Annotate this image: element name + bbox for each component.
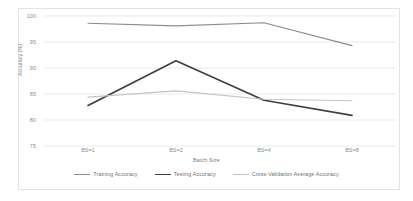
- legend-swatch-icon: [155, 174, 171, 175]
- y-tick-label: 80: [14, 117, 36, 123]
- y-tick-label: 100: [14, 13, 36, 19]
- y-tick-label: 90: [14, 65, 36, 71]
- x-tick-label: BS=2: [154, 147, 198, 153]
- y-tick-label: 75: [14, 143, 36, 149]
- chart-container: Accuracy (%) Batch Size 1009590858075 BS…: [0, 0, 413, 201]
- legend-label: Cross-Validation Average Accuracy: [252, 171, 339, 177]
- x-tick-label: BS=1: [66, 147, 110, 153]
- legend-item[interactable]: Cross-Validation Average Accuracy: [233, 171, 339, 177]
- legend-swatch-icon: [74, 174, 90, 175]
- series-line-1: [88, 61, 352, 116]
- legend-label: Training Accuracy: [93, 171, 137, 177]
- series-line-2: [88, 91, 352, 101]
- x-tick-label: BS=4: [242, 147, 286, 153]
- chart-legend: Training AccuracyTesting AccuracyCross-V…: [0, 171, 413, 177]
- legend-item[interactable]: Testing Accuracy: [155, 171, 216, 177]
- x-axis-title: Batch Size: [0, 157, 413, 163]
- x-tick-label: BS=8: [330, 147, 374, 153]
- legend-label: Testing Accuracy: [174, 171, 216, 177]
- y-tick-label: 95: [14, 39, 36, 45]
- legend-item[interactable]: Training Accuracy: [74, 171, 137, 177]
- legend-swatch-icon: [233, 174, 249, 175]
- y-tick-label: 85: [14, 91, 36, 97]
